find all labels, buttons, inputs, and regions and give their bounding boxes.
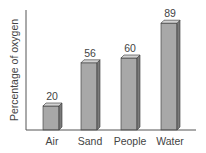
bar-water <box>161 20 180 130</box>
value-label-air: 20 <box>46 90 58 102</box>
bar-sand <box>81 60 100 130</box>
value-label-water: 89 <box>164 7 176 19</box>
data-labels: 20566089 <box>46 7 176 102</box>
x-tick-label-sand: Sand <box>78 135 103 147</box>
x-tick-label-water: Water <box>156 135 184 147</box>
y-axis-label: Percentage of oxygen <box>8 19 20 121</box>
value-label-people: 60 <box>124 42 136 54</box>
bar-people <box>121 55 140 130</box>
bars-group <box>43 20 180 130</box>
bar-chart: Percentage of oxygen AirSandPeopleWater … <box>0 0 206 153</box>
x-tick-label-people: People <box>114 135 147 147</box>
x-tick-labels: AirSandPeopleWater <box>46 135 185 147</box>
x-tick-label-air: Air <box>46 135 59 147</box>
bar-air <box>43 103 62 130</box>
value-label-sand: 56 <box>84 47 96 59</box>
